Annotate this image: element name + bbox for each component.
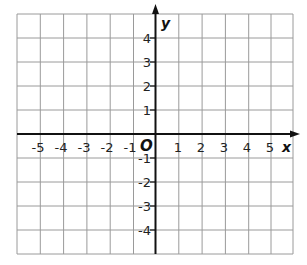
x-axis-label: x (281, 139, 292, 155)
coordinate-plane: y x O -5 -4 -3 -2 -1 1 2 3 4 5 4 3 2 1 -… (0, 0, 307, 265)
x-tick-labels: -5 -4 -3 -2 -1 1 2 3 4 5 (32, 140, 275, 155)
y-tick-label: 4 (143, 31, 151, 46)
x-tick-label: 3 (220, 140, 228, 155)
x-tick-label: -5 (32, 140, 45, 155)
x-axis-arrow-icon (290, 131, 300, 138)
x-tick-label: 5 (266, 140, 274, 155)
x-tick-label: 2 (197, 140, 205, 155)
y-tick-label: -1 (138, 151, 151, 166)
y-axis-arrow-icon (152, 4, 159, 14)
axes (17, 8, 297, 254)
y-tick-label: -4 (138, 223, 151, 238)
y-tick-label: -3 (138, 199, 151, 214)
x-tick-label: -3 (78, 140, 91, 155)
x-tick-label: -1 (124, 140, 137, 155)
x-tick-label: -2 (101, 140, 114, 155)
x-tick-label: -4 (55, 140, 68, 155)
y-axis-label: y (161, 15, 171, 31)
y-tick-label: -2 (138, 175, 151, 190)
y-tick-label: 2 (143, 79, 151, 94)
y-tick-label: 3 (143, 55, 151, 70)
x-tick-label: 4 (243, 140, 251, 155)
y-tick-label: 1 (143, 103, 151, 118)
x-tick-label: 1 (174, 140, 182, 155)
